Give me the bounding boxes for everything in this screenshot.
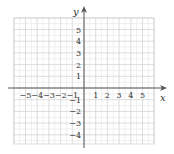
x-axis-label: x: [160, 92, 166, 103]
y-axis-label: y: [72, 6, 79, 17]
y-tick-label: 3: [76, 49, 81, 58]
y-tick-label: 4: [76, 37, 81, 46]
x-tick-label: 1: [93, 91, 98, 100]
x-tick-label: 5: [140, 91, 145, 100]
axes: x y: [8, 6, 167, 148]
x-tick-label: 2: [105, 91, 110, 100]
x-tick-label: −4: [31, 91, 43, 100]
y-tick-label: −3: [69, 119, 81, 128]
x-tick-label: −3: [43, 91, 55, 100]
y-tick-label: 1: [76, 72, 81, 81]
y-tick-label: −1: [69, 96, 81, 105]
x-tick-label: 4: [128, 91, 133, 100]
coordinate-plane: x y −5−4−3−2−11234554321−1−2−3−4: [0, 0, 174, 154]
x-tick-label: −2: [55, 91, 67, 100]
y-tick-label: 2: [76, 61, 81, 70]
x-tick-label: −5: [20, 91, 32, 100]
y-tick-label: −2: [69, 107, 81, 116]
y-tick-label: 5: [76, 26, 81, 35]
y-tick-label: −4: [69, 131, 81, 140]
tick-labels: −5−4−3−2−11234554321−1−2−3−4: [20, 26, 145, 140]
x-tick-label: 3: [117, 91, 122, 100]
